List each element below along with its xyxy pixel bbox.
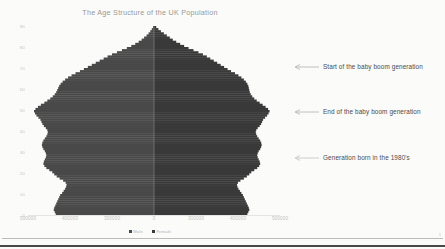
pyramid-bar xyxy=(54,207,154,209)
pyramid-bar xyxy=(72,74,154,76)
pyramid-bar xyxy=(127,47,154,49)
pyramid-bar xyxy=(144,37,154,39)
x-axis-tick-label: 400000 xyxy=(230,216,246,221)
pyramid-bar xyxy=(46,127,154,129)
x-axis-tick-label: 0 xyxy=(153,216,156,221)
pyramid-bar xyxy=(49,169,154,171)
pyramid-bar xyxy=(154,202,247,204)
page-marker: 1 xyxy=(439,232,441,237)
pyramid-bar xyxy=(154,49,194,51)
pyramid-bar xyxy=(154,188,238,190)
pyramid-bar xyxy=(59,196,154,198)
pyramid-bar xyxy=(54,209,154,211)
pyramid-bar xyxy=(154,83,247,85)
pyramid-bar xyxy=(104,58,154,60)
pyramid-bar xyxy=(47,100,154,102)
pyramid-bar xyxy=(58,198,154,200)
y-axis-tick-label: 80 xyxy=(20,45,25,50)
pyramid-bar xyxy=(42,123,154,125)
pyramid-bar xyxy=(154,163,260,165)
pyramid-bar xyxy=(44,165,154,167)
pyramid-bar xyxy=(55,211,154,213)
pyramid-bar xyxy=(42,146,154,148)
y-axis-tick-label: 20 xyxy=(20,171,25,176)
pyramid-bar xyxy=(154,76,241,78)
pyramid-bar xyxy=(154,97,254,99)
pyramid-bar xyxy=(154,177,244,179)
annotation-eighties-generation: Generation born in the 1980's xyxy=(293,154,410,161)
pyramid-bar xyxy=(154,104,263,106)
pyramid-bar xyxy=(112,53,154,55)
pyramid-svg xyxy=(28,26,280,215)
pyramid-bar xyxy=(154,154,257,156)
pyramid-bar xyxy=(154,196,244,198)
pyramid-bar xyxy=(154,165,259,167)
pyramid-bar xyxy=(149,32,154,34)
pyramid-bar xyxy=(154,100,257,102)
pyramid-bar xyxy=(154,167,257,169)
legend-swatch xyxy=(152,230,155,233)
pyramid-bar xyxy=(154,79,244,81)
pyramid-bar xyxy=(154,137,259,139)
pyramid-bar xyxy=(154,192,241,194)
pyramid-bar xyxy=(57,200,154,202)
pyramid-bar xyxy=(154,181,238,183)
legend-label: Male xyxy=(133,229,143,234)
pyramid-bar xyxy=(154,72,235,74)
pyramid-bar xyxy=(154,74,238,76)
pyramid-bar xyxy=(55,205,154,207)
pyramid-bar xyxy=(46,152,154,154)
pyramid-bar xyxy=(59,85,154,87)
pyramid-bar xyxy=(154,60,214,62)
y-axis-tick-label: 50 xyxy=(20,108,25,113)
pyramid-bar xyxy=(92,64,154,66)
population-pyramid-plot xyxy=(28,26,280,215)
pyramid-bar xyxy=(147,34,154,36)
x-axis-tick-label: 300000 xyxy=(104,216,120,221)
pyramid-bar xyxy=(154,110,270,112)
pyramid-bar xyxy=(154,207,249,209)
pyramid-bar xyxy=(154,194,243,196)
pyramid-bar xyxy=(54,173,154,175)
pyramid-bar xyxy=(67,184,154,186)
legend-label: Female xyxy=(156,229,171,234)
bottom-rule xyxy=(0,245,445,247)
pyramid-bar xyxy=(154,53,203,55)
pyramid-bar xyxy=(60,177,154,179)
pyramid-bar xyxy=(154,125,260,127)
pyramid-bar xyxy=(154,47,189,49)
pyramid-bar xyxy=(154,62,217,64)
pyramid-bar xyxy=(154,95,252,97)
pyramid-bar xyxy=(154,87,249,89)
pyramid-bar xyxy=(63,81,154,83)
pyramid-bar xyxy=(142,39,154,41)
pyramid-bar xyxy=(154,205,248,207)
pyramid-bar xyxy=(50,97,154,99)
pyramid-bar xyxy=(44,160,154,162)
pyramid-bar xyxy=(154,148,260,150)
pyramid-bar xyxy=(43,163,154,165)
pyramid-bar xyxy=(154,45,184,47)
y-axis-tick-label: 40 xyxy=(20,129,25,134)
annotation-text: Generation born in the 1980's xyxy=(323,154,410,161)
pyramid-bar xyxy=(154,152,258,154)
pyramid-bar xyxy=(154,91,250,93)
pyramid-bar xyxy=(35,112,154,114)
pyramid-bar xyxy=(150,30,154,32)
pyramid-bar xyxy=(46,156,154,158)
y-axis-tick-label: 70 xyxy=(20,66,25,71)
pyramid-bar xyxy=(68,76,154,78)
y-axis: 9080706050403020100 xyxy=(0,26,28,215)
pyramid-bar xyxy=(154,129,256,131)
pyramid-bar xyxy=(46,154,154,156)
pyramid-bar xyxy=(63,179,154,181)
pyramid-bar xyxy=(46,167,154,169)
pyramid-bar xyxy=(154,34,167,36)
pyramid-bar xyxy=(154,139,260,141)
pyramid-bar xyxy=(154,37,170,39)
pyramid-bar xyxy=(135,43,154,45)
left-arrow-icon xyxy=(293,64,319,70)
pyramid-bar xyxy=(64,190,154,192)
pyramid-bar xyxy=(40,118,154,120)
chart-legend: MaleFemale xyxy=(0,229,300,234)
